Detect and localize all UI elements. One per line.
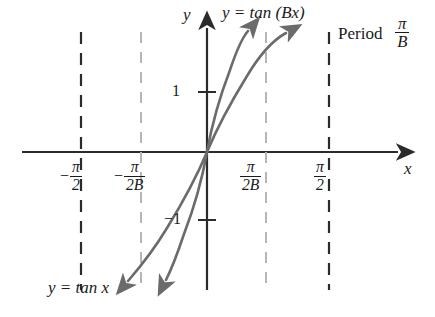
numerator: π bbox=[245, 159, 257, 175]
curve-tan-x-upper-branch bbox=[207, 33, 286, 152]
x-tick-label-neg-pi-over-2B: − π 2B bbox=[114, 161, 145, 195]
y-tick-label-negative-one: −1 bbox=[164, 211, 181, 227]
x-axis-label: x bbox=[404, 160, 412, 177]
tangent-period-figure: y x y = tan (Bx) y = tan x Period π B 1 … bbox=[0, 0, 435, 317]
y-tick-label-positive-one: 1 bbox=[172, 83, 180, 99]
period-annotation: Period π B bbox=[338, 17, 409, 52]
period-numerator: π bbox=[396, 15, 408, 32]
period-word: Period bbox=[338, 24, 382, 43]
period-denominator: B bbox=[395, 32, 409, 50]
fraction: π 2B bbox=[124, 159, 145, 193]
numerator: π bbox=[314, 159, 326, 175]
denominator: 2B bbox=[240, 176, 261, 193]
numerator: π bbox=[129, 159, 141, 175]
x-tick-label-neg-pi-over-2: − π 2 bbox=[60, 161, 82, 195]
minus-sign: − bbox=[60, 168, 70, 184]
minus-sign: − bbox=[114, 168, 124, 184]
x-tick-label-pi-over-2: π 2 bbox=[314, 161, 326, 195]
denominator: 2 bbox=[70, 176, 82, 193]
y-axis-label: y bbox=[183, 6, 191, 23]
curve-label-tan-bx: y = tan (Bx) bbox=[222, 4, 305, 21]
numerator: π bbox=[70, 159, 82, 175]
fraction: π 2 bbox=[314, 159, 326, 193]
curve-label-tan-x: y = tan x bbox=[48, 279, 109, 296]
denominator: 2 bbox=[314, 176, 326, 193]
fraction: π 2 bbox=[70, 159, 82, 193]
x-tick-label-pi-over-2B: π 2B bbox=[240, 161, 261, 195]
period-fraction: π B bbox=[395, 15, 409, 50]
fraction: π 2B bbox=[240, 159, 261, 193]
denominator: 2B bbox=[124, 176, 145, 193]
